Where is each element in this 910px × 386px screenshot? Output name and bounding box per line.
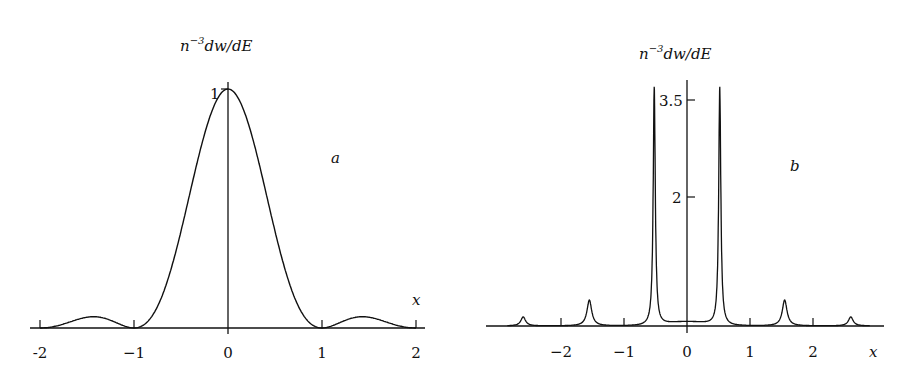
panel-label-a: a xyxy=(331,149,340,167)
x-tick-label: −1 xyxy=(613,343,635,361)
x-tick-labels-a: -2−1012 xyxy=(33,344,421,362)
x-tick-label: 0 xyxy=(223,344,233,362)
y-axis-label-b: n−3dw/dE xyxy=(639,43,712,63)
y-tick-label-3.5-b: 3.5 xyxy=(659,92,683,110)
y-axis-label-a: n−3dw/dE xyxy=(180,35,253,55)
figure: 1 x a n−3dw/dE -2−1012 3.5 2 x b n−3dw/d… xyxy=(0,0,910,386)
x-tick-label: 1 xyxy=(745,343,755,361)
x-tick-label: 2 xyxy=(411,344,421,362)
curve-b xyxy=(507,87,869,326)
chart-panel-b: 3.5 2 x b n−3dw/dE −2−1012 xyxy=(486,43,884,361)
x-tick-label: 2 xyxy=(808,343,818,361)
x-tick-label: 0 xyxy=(682,343,692,361)
panel-label-b: b xyxy=(790,157,800,175)
x-tick-label: -2 xyxy=(33,344,48,362)
y-tick-label-a: 1 xyxy=(210,85,220,103)
x-tick-label: −1 xyxy=(123,344,145,362)
chart-panel-a: 1 x a n−3dw/dE -2−1012 xyxy=(30,35,425,362)
y-tick-label-2-b: 2 xyxy=(672,189,682,207)
x-tick-label: 1 xyxy=(317,344,327,362)
x-axis-label-b: x xyxy=(869,343,878,361)
x-axis-label-a: x xyxy=(412,291,421,309)
x-tick-label: −2 xyxy=(550,343,572,361)
x-tick-labels-b: −2−1012 xyxy=(550,343,818,361)
